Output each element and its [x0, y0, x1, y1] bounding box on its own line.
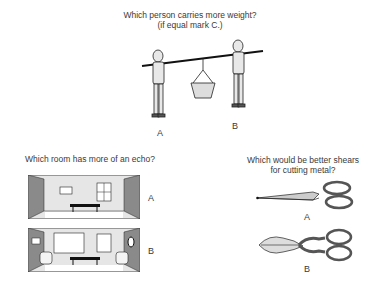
question-shears-prompt: Which would be better shears for cutting…	[238, 155, 368, 175]
question-weight-prompt: Which person carries more weight? (if eq…	[100, 10, 280, 30]
room-a-illustration	[28, 175, 140, 219]
pole-bearers-illustration	[135, 38, 275, 138]
prompt-line: for cutting metal?	[238, 165, 368, 175]
question-echo-prompt: Which room has more of an echo?	[5, 154, 175, 164]
shears-b-illustration	[255, 228, 360, 262]
option-a-label: A	[148, 193, 154, 203]
prompt-line: Which would be better shears	[238, 155, 368, 165]
room-b-illustration	[28, 228, 140, 272]
option-b-label: B	[304, 264, 310, 274]
prompt-line: Which room has more of an echo?	[5, 154, 175, 164]
shears-a-illustration	[255, 180, 360, 210]
option-a-label: A	[157, 128, 163, 138]
prompt-line: Which person carries more weight?	[100, 10, 280, 20]
option-b-label: B	[148, 246, 154, 256]
prompt-line: (if equal mark C.)	[100, 20, 280, 30]
option-a-label: A	[304, 212, 310, 222]
option-b-label: B	[232, 121, 238, 131]
